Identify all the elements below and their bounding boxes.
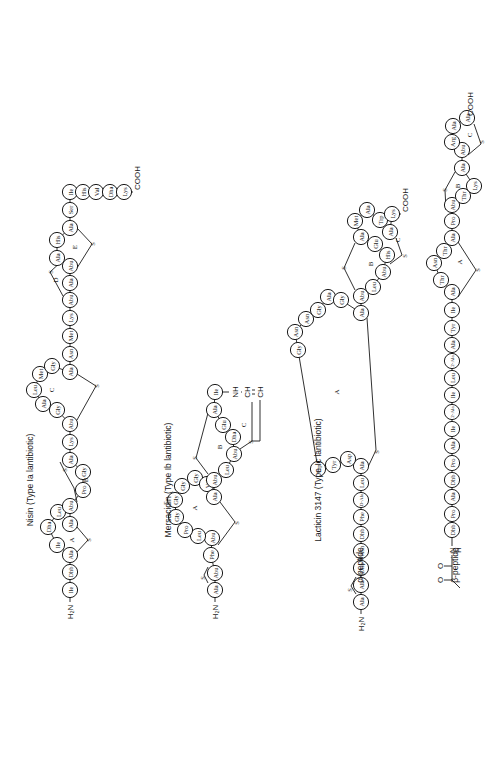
nh-group-label: NH [231,386,240,398]
residue-abu: Abu [62,292,77,307]
residue-ala: Ala [62,275,77,290]
residue-gly: Gly [75,464,90,479]
residue-ala: Ala [62,220,77,235]
residue-met: Met [62,328,77,343]
residue-label: Gly [173,511,180,521]
o-atom-label: O [436,577,445,583]
residue-abu: Abu [62,498,77,513]
residue-label: Ile [449,306,456,313]
residue-pro: Pro [177,522,192,537]
sulfur-atom-label: S [247,440,254,444]
residue-glu: Glu [215,417,230,432]
ring-label-a: A [333,389,341,394]
sulfur-atom-label: S [93,384,100,388]
residue-label: Phe [358,512,365,522]
c-terminus-label: COOH [466,92,475,116]
residue-lys: Lys [62,310,77,325]
ring-label-c: C [48,387,56,392]
residue-label: Ala [358,232,365,241]
residue-label: Asn [292,326,299,337]
residue-his: His [379,247,394,262]
residue-abu: Abu [206,472,221,487]
residue-ile: Ile [207,384,222,399]
residue-lys: Lys [466,178,481,193]
residue-asn: Asn [62,346,77,361]
thioether-bridge [60,462,77,502]
residue-label: Thr [438,275,445,285]
ring-label-b: B [82,477,90,482]
thioether-bridge [196,413,208,474]
sulfur-atom-label: S [401,254,408,258]
residue-label: Met [67,331,74,342]
residue-met: Met [347,213,362,228]
diagram-canvas: IleDhbAlaIleDhaLeuAlaAbuProGlyAlaLysAbuG… [0,0,500,772]
ch-group-label: CH [243,386,252,398]
residue-pro: Pro [444,506,459,521]
residue-label: Tyr [330,460,337,470]
ring-label-d: D [52,277,60,282]
residue-label: Pro [449,217,456,226]
sulfur-atom-label: S [233,521,240,525]
residue-label: Dhb [358,528,365,539]
residue-label: Ala [211,405,218,414]
residue-label: Glu [372,238,379,248]
residue-label: Ala [387,227,394,236]
residue-ala: Ala [454,160,469,175]
residue-ala: Ala [382,224,397,239]
residue-label: Abu [67,294,74,306]
lacticin-3147-title: Lacticin 3147 (Type Ic lantibiotic) [313,418,323,541]
sulfur-atom-label: S [199,576,206,580]
residue-label: Asn [431,257,438,268]
residue-dhb: Dhb [444,522,459,537]
residue-ala: Ala [62,452,77,467]
residue-label: Ala [450,121,457,130]
residue-label: Pro [449,459,456,468]
residue-label: Gly [192,472,199,482]
residue-ala: Ala [62,364,77,379]
residue-label: Ile [67,586,74,593]
residue-label: Abu [212,567,219,579]
residue-label: Gly [179,480,186,490]
residue-label: Lys [67,437,74,447]
residue-label: Ala [67,455,74,464]
residue-label: Ala [449,287,456,296]
sulfur-atom-label: S [346,588,353,592]
residue-label: Ala [67,367,74,376]
residue-abu: Abu [375,264,390,279]
residue-val: Val [88,184,103,199]
residue-label: Ala [67,223,74,232]
residue-label: Tyr [449,323,456,333]
h-atom-label: H [454,547,463,553]
residue-label: Abu [67,260,74,272]
lantibiotic-diagram: IleDhbAlaIleDhaLeuAlaAbuProGlyAlaLysAbuG… [0,0,500,772]
residue-label: Ala [325,292,332,301]
residue-ala: Ala [445,118,460,133]
sulfur-atom-label: S [340,266,347,270]
residue-tyr: Tyr [444,320,459,335]
residue-abu: Abu [62,416,77,431]
residue-label: His [384,250,391,259]
residue-ile: Ile [49,537,64,552]
residue-label: Leu [223,464,230,475]
residue-label: Val [93,188,100,197]
residue-phe: Phe [353,509,368,524]
residue-label: Ala [449,340,456,349]
sulfur-atom-label: S [373,450,380,454]
residue-label: His [80,187,87,196]
residue-ala: Ala [353,229,368,244]
residue-leu: Leu [365,279,380,294]
n-terminus-label: H₂N [357,616,366,631]
residue-tyr: Tyr [325,457,340,472]
thioether-bridge [77,374,96,420]
residue-label: Arg [449,136,456,147]
residue-label: Leu [195,530,202,541]
residue-pro: Pro [444,455,459,470]
residue-label: Asn [67,348,74,359]
residue-label: Lys [67,313,74,323]
residue-label: D-Ala [359,493,364,506]
residue-label: Ala [358,461,365,470]
nisin-title: Nisin (Type Ia lantibiotic) [25,434,35,527]
residue-label: Gly [54,404,61,414]
residue-label: Leu [31,384,38,395]
ring-label-a: A [68,537,76,542]
